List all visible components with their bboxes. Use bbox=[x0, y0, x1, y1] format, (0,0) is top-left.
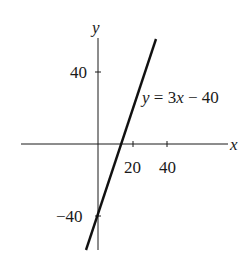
equation-eq: = 3 bbox=[150, 88, 177, 107]
x-axis-label: x bbox=[229, 135, 238, 154]
x-tick-label-40: 40 bbox=[159, 158, 176, 177]
y-tick-label-40: 40 bbox=[70, 63, 87, 82]
equation-rest: − 40 bbox=[184, 88, 219, 107]
line-chart: x y 20 40 40 −40 y = 3x − 40 bbox=[0, 0, 243, 273]
equation-label: y = 3x − 40 bbox=[140, 88, 219, 107]
x-tick-label-20: 20 bbox=[124, 158, 141, 177]
y-tick-label-neg40: −40 bbox=[56, 207, 83, 226]
y-axis-label: y bbox=[90, 18, 100, 37]
equation-y: y bbox=[140, 88, 150, 107]
